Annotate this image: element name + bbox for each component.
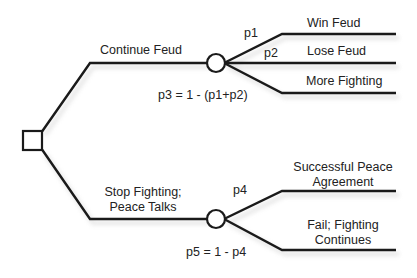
chance-node-upper: [207, 54, 225, 72]
branch-label-stop-fighting: Stop Fighting; Peace Talks: [100, 185, 186, 215]
branch-label-line1: Stop Fighting;: [100, 185, 186, 200]
formula-p3: p3 = 1 - (p1+p2): [158, 88, 248, 103]
outcome-successful-peace: Successful Peace Agreement: [288, 160, 398, 190]
branch-label-line2: Peace Talks: [100, 200, 186, 215]
branch-label-continue-feud: Continue Feud: [100, 43, 182, 58]
decision-node-square: [23, 131, 42, 150]
outcome-line1: Fail; Fighting: [288, 218, 398, 233]
prob-label-p1: p1: [244, 26, 258, 41]
outcome-line2: Agreement: [288, 175, 398, 190]
outcome-win-feud: Win Feud: [307, 16, 361, 31]
prob-label-p4: p4: [233, 183, 247, 198]
outcome-line1: Successful Peace: [288, 160, 398, 175]
outcome-fail-fighting: Fail; Fighting Continues: [288, 218, 398, 248]
outcome-lose-feud: Lose Feud: [307, 44, 366, 59]
prob-label-p2: p2: [264, 46, 278, 61]
outcome-more-fighting: More Fighting: [306, 74, 382, 89]
outcome-line2: Continues: [288, 233, 398, 248]
formula-p5: p5 = 1 - p4: [186, 245, 246, 260]
chance-node-lower: [207, 210, 225, 228]
